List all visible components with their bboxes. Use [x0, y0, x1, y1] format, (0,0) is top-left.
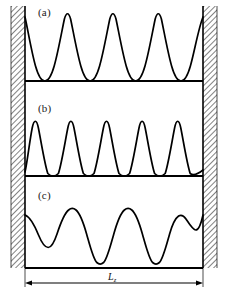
figure-canvas	[0, 0, 227, 299]
left-barrier	[11, 6, 25, 268]
wavefunction-curve-a	[25, 14, 203, 81]
well-width-label: Lz	[108, 271, 116, 282]
well-width-label-subscript: z	[114, 276, 117, 283]
panel-label-b: (b)	[38, 102, 51, 114]
wavefunction-curve-c	[25, 209, 203, 265]
quantum-well-figure: (a) (b) (c) Lz	[0, 0, 227, 299]
right-barrier	[203, 6, 217, 268]
panel-label-a: (a)	[38, 6, 51, 18]
panel-label-c: (c)	[38, 189, 51, 201]
well-width-label-main: L	[108, 271, 114, 282]
wavefunction-curve-b	[25, 121, 203, 176]
